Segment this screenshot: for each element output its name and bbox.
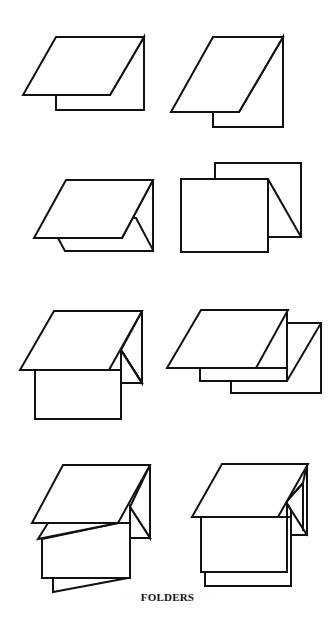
folder-illustration-3 [34, 180, 153, 251]
folders-diagram [0, 0, 335, 631]
folder-illustration-7 [32, 465, 150, 592]
folder-illustration-8 [192, 464, 308, 586]
folder-illustration-4 [181, 163, 301, 252]
folder-illustration-6 [167, 310, 321, 393]
folder-illustration-2 [171, 37, 283, 127]
folder-illustration-1 [23, 37, 144, 110]
figure-caption: FOLDERS [0, 591, 335, 603]
folder-illustration-5 [20, 311, 142, 419]
